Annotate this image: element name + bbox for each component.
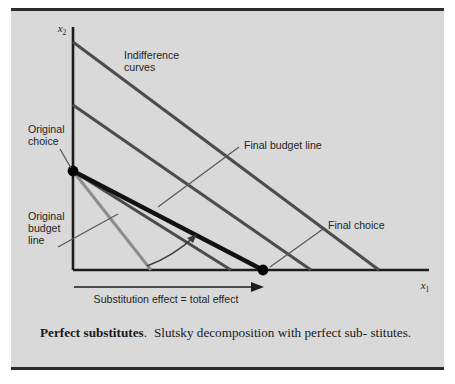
pivot-curved-arrow [147, 234, 197, 266]
original-budget-line-label-line1: Original [28, 210, 65, 222]
original-budget-line-label-line3: line [28, 234, 45, 246]
substitution-effect-label: Substitution effect = total effect [94, 293, 239, 305]
indifference-curve-1 [73, 171, 231, 270]
caption-body: Slutsky decomposition with perfect sub- [154, 325, 367, 340]
figure-root: x2 x1 [0, 0, 455, 384]
leader-original-budget-line [58, 214, 118, 247]
y-axis-label: x2 [57, 22, 67, 37]
indifference-curves-label-line2: curves [124, 61, 155, 73]
original-choice-point [68, 166, 79, 177]
slutsky-perfect-substitutes-chart: x2 x1 [11, 8, 444, 308]
final-budget-line-label: Final budget line [244, 139, 322, 151]
caption-bold-lead: Perfect substitutes [40, 325, 144, 340]
original-choice-label-line2: choice [28, 135, 59, 147]
substitution-effect-arrow-head [251, 282, 264, 292]
figure-bottom-rule [11, 367, 444, 370]
final-choice-point [258, 265, 269, 276]
caption-body-cont: stitutes. [370, 325, 411, 340]
indifference-curves-label-line1: Indifference [124, 49, 179, 61]
leader-original-choice [60, 149, 71, 168]
substitution-effect-measure: Substitution effect = total effect [74, 282, 264, 305]
original-choice-label-line1: Original [28, 123, 65, 135]
leader-final-budget-line [158, 147, 239, 207]
x-axis-label: x1 [420, 279, 430, 294]
original-budget-line [73, 171, 151, 270]
final-choice-label: Final choice [328, 219, 385, 231]
original-budget-line-label-line2: budget [28, 222, 60, 234]
final-budget-line [73, 171, 263, 270]
figure-caption: Perfect substitutes.Slutsky decompositio… [40, 324, 420, 341]
caption-period: . [144, 325, 147, 340]
